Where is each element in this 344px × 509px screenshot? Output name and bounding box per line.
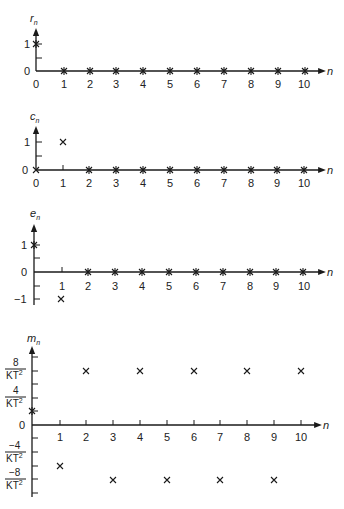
svg-text:6: 6 [193, 280, 199, 292]
x-label: n [323, 419, 329, 431]
svg-text:9: 9 [273, 280, 279, 292]
svg-text:9: 9 [271, 431, 277, 443]
svg-text:4: 4 [13, 385, 19, 396]
svg-text:1: 1 [60, 177, 66, 189]
svg-text:5: 5 [164, 431, 170, 443]
ytick-4-over-KT2: 4 KT2 [5, 385, 26, 409]
y-label-r: rn [30, 12, 38, 26]
svg-text:4: 4 [139, 280, 145, 292]
ytick-neg4-over-KT2: −4 KT2 [5, 440, 26, 464]
y-label-c: cn [30, 110, 40, 124]
svg-text:0: 0 [33, 78, 39, 90]
svg-text:5: 5 [167, 78, 173, 90]
svg-text:KT2: KT2 [6, 369, 23, 381]
xtick-labels: 0 1 2 3 4 5 6 7 8 9 10 [33, 177, 310, 189]
svg-text:2: 2 [87, 78, 93, 90]
data-points [33, 40, 308, 75]
svg-text:10: 10 [298, 280, 310, 292]
ytick-neg8-over-KT2: −8 KT2 [5, 467, 26, 491]
svg-text:10: 10 [298, 177, 310, 189]
svg-text:8: 8 [248, 177, 254, 189]
ytick-0: 0 [22, 164, 28, 176]
ytick-1: 1 [24, 136, 30, 148]
svg-text:4: 4 [140, 177, 146, 189]
svg-text:7: 7 [217, 431, 223, 443]
x-label: n [327, 65, 333, 77]
svg-text:4: 4 [137, 431, 143, 443]
svg-text:3: 3 [110, 431, 116, 443]
svg-text:3: 3 [113, 78, 119, 90]
svg-text:5: 5 [167, 177, 173, 189]
svg-text:3: 3 [112, 280, 118, 292]
svg-text:7: 7 [221, 177, 227, 189]
svg-text:1: 1 [57, 431, 63, 443]
data-points [33, 139, 307, 174]
xtick-labels: 0 1 2 3 4 5 6 7 8 9 10 [33, 78, 310, 90]
ytick-8-over-KT2: 8 KT2 [5, 357, 26, 381]
svg-text:10: 10 [295, 431, 307, 443]
svg-text:KT2: KT2 [6, 452, 23, 464]
svg-text:2: 2 [83, 431, 89, 443]
ytick-0: 0 [24, 65, 30, 77]
svg-text:3: 3 [113, 177, 119, 189]
svg-text:8: 8 [244, 431, 250, 443]
x-ticks [60, 420, 301, 425]
svg-text:6: 6 [194, 78, 200, 90]
xtick-labels: 1 2 3 4 5 6 7 8 9 10 [59, 280, 310, 292]
svg-text:KT2: KT2 [6, 479, 23, 491]
y-label-e: en [30, 207, 40, 221]
svg-text:6: 6 [191, 431, 197, 443]
svg-text:5: 5 [166, 280, 172, 292]
svg-text:9: 9 [274, 177, 280, 189]
svg-text:−8: −8 [9, 467, 21, 478]
ytick-1: 1 [24, 38, 30, 50]
svg-text:7: 7 [221, 78, 227, 90]
plot-c-n: cn n 1 0 0 1 2 3 4 5 6 7 8 9 10 [22, 110, 333, 189]
svg-text:8: 8 [13, 357, 19, 368]
svg-text:−4: −4 [9, 440, 21, 451]
xtick-labels: 1 2 3 4 5 6 7 8 9 10 [57, 431, 307, 443]
svg-text:2: 2 [86, 177, 92, 189]
svg-text:8: 8 [247, 280, 253, 292]
y-label-m: mn [27, 332, 40, 346]
svg-text:1: 1 [61, 78, 67, 90]
svg-text:10: 10 [298, 78, 310, 90]
ytick-neg1: −1 [14, 293, 27, 305]
svg-text:1: 1 [59, 280, 65, 292]
svg-text:9: 9 [275, 78, 281, 90]
ytick-0: 0 [21, 266, 27, 278]
svg-text:0: 0 [33, 177, 39, 189]
svg-text:4: 4 [140, 78, 146, 90]
svg-text:7: 7 [220, 280, 226, 292]
svg-text:8: 8 [248, 78, 254, 90]
plot-r-n: rn n 1 0 0 1 2 3 4 5 6 7 8 9 10 [24, 12, 333, 90]
plot-m-n: mn n 8 [5, 332, 329, 497]
svg-text:6: 6 [194, 177, 200, 189]
x-label: n [327, 164, 333, 176]
x-label: n [327, 266, 333, 278]
svg-text:2: 2 [85, 280, 91, 292]
ytick-0: 0 [19, 419, 25, 431]
figure-canvas: rn n 1 0 0 1 2 3 4 5 6 7 8 9 10 [0, 0, 344, 509]
ytick-1: 1 [21, 239, 27, 251]
svg-text:KT2: KT2 [6, 397, 23, 409]
plot-e-n: en n 1 0 −1 1 2 3 4 5 6 7 8 9 10 [14, 207, 333, 305]
